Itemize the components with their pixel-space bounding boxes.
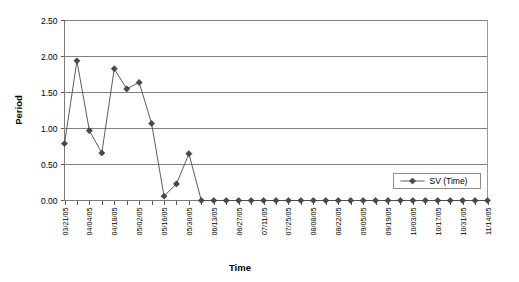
x-axis-tick-label: 10/17/05: [434, 208, 443, 236]
y-axis-tick-label: 2.50: [41, 16, 58, 26]
data-point-marker: [61, 141, 67, 147]
x-axis-tick-label: 09/05/05: [359, 208, 368, 236]
y-axis-tick-label: 0.50: [41, 160, 58, 170]
x-axis-tick-label: 05/02/05: [135, 208, 144, 236]
data-point-marker: [248, 197, 254, 203]
data-point-marker: [111, 66, 117, 72]
data-point-marker: [260, 197, 266, 203]
y-axis-tick-label: 1.00: [41, 124, 58, 134]
x-axis-title: Time: [229, 262, 251, 273]
data-point-marker: [148, 120, 154, 126]
x-axis-tick-label: 11/14/05: [484, 208, 493, 235]
data-point-marker: [74, 58, 80, 64]
data-point-marker: [310, 197, 316, 203]
y-axis-title: Period: [13, 95, 24, 125]
x-axis-tick-label: 07/11/05: [260, 208, 269, 235]
x-axis-tick-label: 07/25/05: [284, 208, 293, 236]
data-point-marker: [211, 197, 217, 203]
x-axis-tick-label: 08/22/05: [334, 208, 343, 236]
data-point-marker: [348, 197, 354, 203]
x-axis-tick-labels: 03/21/0504/04/0504/18/0505/02/0505/16/05…: [61, 208, 493, 236]
legend: SV (Time): [394, 174, 481, 189]
data-point-marker: [285, 197, 291, 203]
data-point-marker: [410, 197, 416, 203]
x-axis-tick-label: 05/16/05: [160, 208, 169, 236]
x-axis-tick-label: 10/03/05: [409, 208, 418, 236]
data-point-marker: [223, 197, 229, 203]
data-point-marker: [323, 197, 329, 203]
x-axis-tick-label: 03/21/05: [61, 208, 70, 236]
data-point-marker: [484, 197, 490, 203]
y-axis-tick-label: 2.00: [41, 52, 58, 62]
x-axis-tick-label: 10/31/05: [459, 208, 468, 236]
data-point-marker: [198, 197, 204, 203]
data-point-marker: [397, 197, 403, 203]
chart-container: 0.000.501.001.502.002.5003/21/0504/04/05…: [0, 0, 519, 282]
data-point-marker: [360, 197, 366, 203]
x-axis-tick-label: 08/08/05: [309, 208, 318, 236]
y-axis-tick-label: 0.00: [41, 196, 58, 206]
data-point-marker: [273, 197, 279, 203]
data-point-marker: [236, 197, 242, 203]
x-axis-tick-label: 04/04/05: [85, 208, 94, 236]
data-point-marker: [372, 197, 378, 203]
legend-label-sv-time: SV (Time): [430, 176, 468, 186]
data-point-marker: [186, 151, 192, 157]
data-point-marker: [335, 197, 341, 203]
data-point-marker: [99, 150, 105, 156]
data-point-marker: [385, 197, 391, 203]
data-point-marker: [435, 197, 441, 203]
data-point-marker: [298, 197, 304, 203]
x-axis-tick-label: 04/18/05: [110, 208, 119, 236]
data-point-marker: [472, 197, 478, 203]
data-point-marker: [422, 197, 428, 203]
x-axis-tick-label: 06/13/05: [210, 208, 219, 236]
data-point-marker: [447, 197, 453, 203]
data-point-marker: [124, 86, 130, 92]
x-axis-tick-label: 09/19/05: [384, 208, 393, 236]
data-point-marker: [460, 197, 466, 203]
x-axis-tick-label: 06/27/05: [235, 208, 244, 236]
data-point-marker: [136, 79, 142, 85]
y-axis-tick-label: 1.50: [41, 88, 58, 98]
x-axis-tick-label: 05/30/05: [185, 208, 194, 236]
line-chart: 0.000.501.001.502.002.5003/21/0504/04/05…: [0, 0, 519, 282]
